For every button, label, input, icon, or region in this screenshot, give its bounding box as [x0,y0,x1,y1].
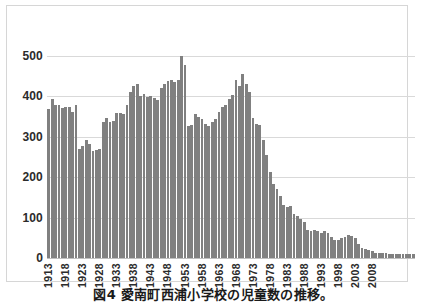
bar [68,107,71,258]
bar [241,74,244,258]
bar [402,254,405,258]
bar [71,112,74,258]
bar [224,105,227,258]
bar [153,98,156,258]
bar [81,146,84,258]
bar [374,253,377,258]
figure-caption: 図4 愛南町西浦小学校の児童数の推移。 [0,284,427,303]
bar [330,237,333,258]
bar [146,97,149,258]
bar [119,113,122,258]
bar [139,96,142,258]
bar [85,140,88,258]
bar [299,219,302,258]
bar [235,80,238,258]
bar [136,84,139,258]
bar [255,124,258,258]
bar [327,233,330,258]
bar [412,254,415,258]
bar [385,253,388,258]
bar [102,122,105,258]
gridline-0 [47,258,415,259]
bar [95,150,98,258]
y-axis-label-300: 300 [22,131,43,143]
y-axis-label-500: 500 [22,50,43,62]
bar [303,222,306,258]
bar [47,109,50,258]
bar [112,121,115,258]
bar [201,119,204,258]
bar [344,237,347,258]
bar [364,249,367,258]
bar [190,125,193,258]
bar [75,105,78,258]
bar [221,107,224,258]
bar [54,105,57,258]
bar [381,253,384,258]
bar [64,107,67,258]
bar [272,184,275,258]
y-axis: 0100200300400500 [13,11,47,288]
plot-area [47,48,415,259]
bar [337,240,340,258]
bar [293,214,296,258]
bar [378,253,381,258]
bar [371,251,374,258]
bar [132,86,135,258]
bar [228,99,231,258]
bar-series [47,48,415,258]
bar [347,235,350,258]
bar [51,99,54,258]
bar [197,117,200,258]
bar [323,231,326,258]
bar [354,238,357,258]
bar [289,206,292,259]
bar [269,172,272,258]
bar [122,114,125,258]
bar [160,88,163,258]
bar [204,124,207,258]
bar [320,233,323,258]
bar [78,149,81,258]
bar [129,92,132,258]
bar [258,125,261,258]
y-axis-label-400: 400 [22,90,43,102]
bar [310,231,313,258]
bar [109,122,112,259]
bar [313,230,316,258]
y-axis-label-200: 200 [22,171,43,183]
bar [184,65,187,258]
bar [306,230,309,258]
bar [238,86,241,258]
bar [333,240,336,258]
bar [361,248,364,258]
bar [316,231,319,258]
bar [395,254,398,258]
bar [286,207,289,258]
bar [408,254,411,258]
bar [156,100,159,258]
bar [218,112,221,258]
bar [391,254,394,258]
bar [163,84,166,258]
bar [405,254,408,258]
bar [187,126,190,258]
bar [167,81,170,258]
y-axis-label-100: 100 [22,212,43,224]
bar [98,149,101,258]
bar [92,151,95,258]
bar [170,80,173,258]
bar [357,244,360,258]
bar [149,96,152,258]
bar [350,236,353,258]
bar [58,105,61,258]
bar [115,113,118,258]
bar [231,95,234,258]
bar [61,108,64,258]
bar [262,140,265,258]
bar [265,155,268,258]
bar [177,80,180,258]
bar [276,189,279,258]
bar [194,114,197,258]
bar [207,126,210,258]
